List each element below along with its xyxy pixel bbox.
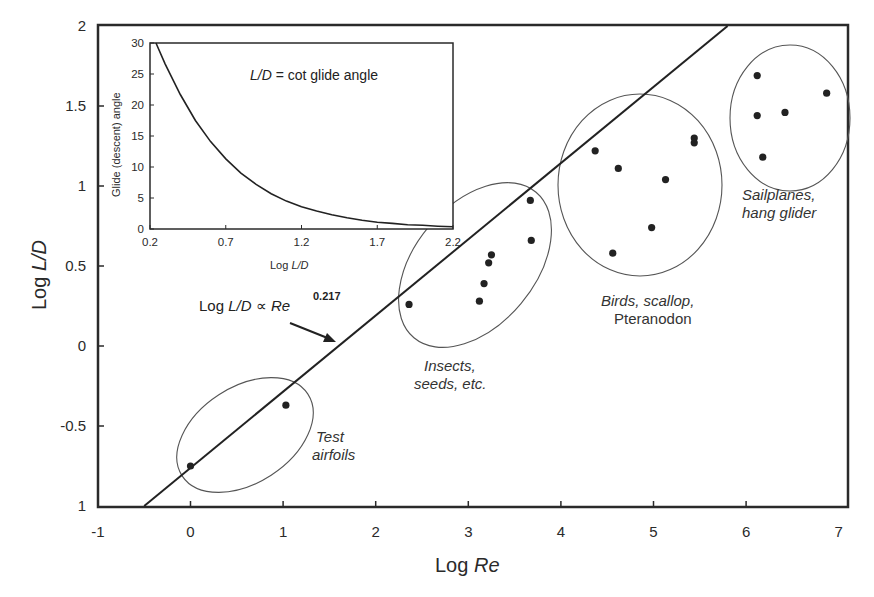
data-point [488, 251, 495, 258]
data-point [662, 176, 669, 183]
x-axis-title: Log Re [435, 554, 500, 576]
y-tick-label: 0 [78, 337, 86, 354]
scatter-chart: -101234567 1-0.500.511.52 Log L/D ∝ Re 0… [0, 0, 874, 597]
inset-y-tick-label: 0 [138, 223, 144, 235]
label-sailplanes-2: hang glider [742, 204, 817, 221]
label-test-airfoils-2: airfoils [312, 446, 356, 463]
y-tick-label: 2 [78, 17, 86, 34]
svg-text:Log L/D ∝ Re: Log L/D ∝ Re [199, 297, 290, 314]
data-point [691, 139, 698, 146]
fit-exponent: 0.217 [313, 290, 341, 302]
inset-x-tick-label: 2.2 [445, 236, 461, 248]
label-insects-2: seeds, etc. [414, 375, 487, 392]
data-point [615, 165, 622, 172]
x-tick-label: -1 [91, 523, 104, 540]
y-tick-label: 0.5 [65, 257, 86, 274]
inset-x-tick-label: 0.7 [218, 236, 234, 248]
data-point [405, 301, 412, 308]
x-tick-label: 2 [372, 523, 380, 540]
inset-y-tick-label: 5 [138, 192, 144, 204]
inset-chart: 0.20.71.21.72.2 051015202530 Log L/D Gli… [110, 37, 461, 271]
ellipse-sailplanes [730, 45, 850, 191]
x-tick-label: 1 [279, 523, 287, 540]
inset-x-tick-label: 0.2 [142, 236, 158, 248]
data-point [648, 224, 655, 231]
data-point [480, 280, 487, 287]
label-birds-2: Pteranodon [614, 310, 692, 327]
x-tick-label: 7 [835, 523, 843, 540]
fit-annotation: Log L/D ∝ Re 0.217 [199, 290, 341, 342]
y-axis-title: Log L/D [28, 240, 50, 310]
y-tick-label: 1 [78, 177, 86, 194]
inset-annotation: L/D = cot glide angle [250, 67, 378, 83]
data-point [476, 298, 483, 305]
inset-y-tick-label: 15 [131, 130, 144, 142]
inset-x-tick-label: 1.7 [369, 236, 385, 248]
label-birds-1: Birds, scallop, [601, 292, 694, 309]
data-point [282, 402, 289, 409]
data-point [754, 72, 761, 79]
inset-y-tick-label: 30 [131, 37, 144, 49]
data-point [592, 147, 599, 154]
inset-y-tick-label: 20 [131, 99, 144, 111]
data-point [527, 197, 534, 204]
x-tick-label: 0 [186, 523, 194, 540]
data-point [754, 112, 761, 119]
inset-x-tick-label: 1.2 [294, 236, 310, 248]
inset-y-tick-label: 10 [131, 161, 144, 173]
x-tick-label: 6 [742, 523, 750, 540]
data-point [823, 90, 830, 97]
ellipse-birds [558, 94, 722, 276]
ellipse-test-airfoils [156, 354, 334, 516]
inset-y-tick-label: 25 [131, 68, 144, 80]
y-tick-label: -0.5 [60, 417, 86, 434]
data-point [781, 109, 788, 116]
data-point [759, 154, 766, 161]
label-test-airfoils-1: Test [316, 428, 345, 445]
label-insects-1: Insects, [424, 357, 476, 374]
inset-x-title: Log L/D [270, 259, 309, 271]
x-tick-label: 5 [649, 523, 657, 540]
y-tick-label: 1 [78, 497, 86, 514]
x-tick-label: 3 [464, 523, 472, 540]
data-point [609, 250, 616, 257]
data-point [485, 259, 492, 266]
x-tick-label: 4 [557, 523, 565, 540]
arrow-shaft [290, 323, 330, 339]
data-point [528, 237, 535, 244]
data-point [187, 462, 194, 469]
label-sailplanes-1: Sailplanes, [742, 186, 815, 203]
inset-y-title: Glide (descent) angle [110, 92, 122, 197]
y-tick-label: 1.5 [65, 97, 86, 114]
